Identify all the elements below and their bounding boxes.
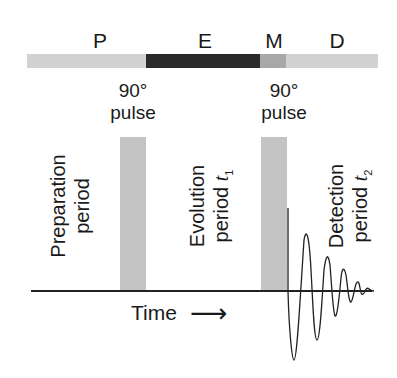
fid-signal-path <box>288 208 374 360</box>
fid-waveform <box>0 0 397 378</box>
